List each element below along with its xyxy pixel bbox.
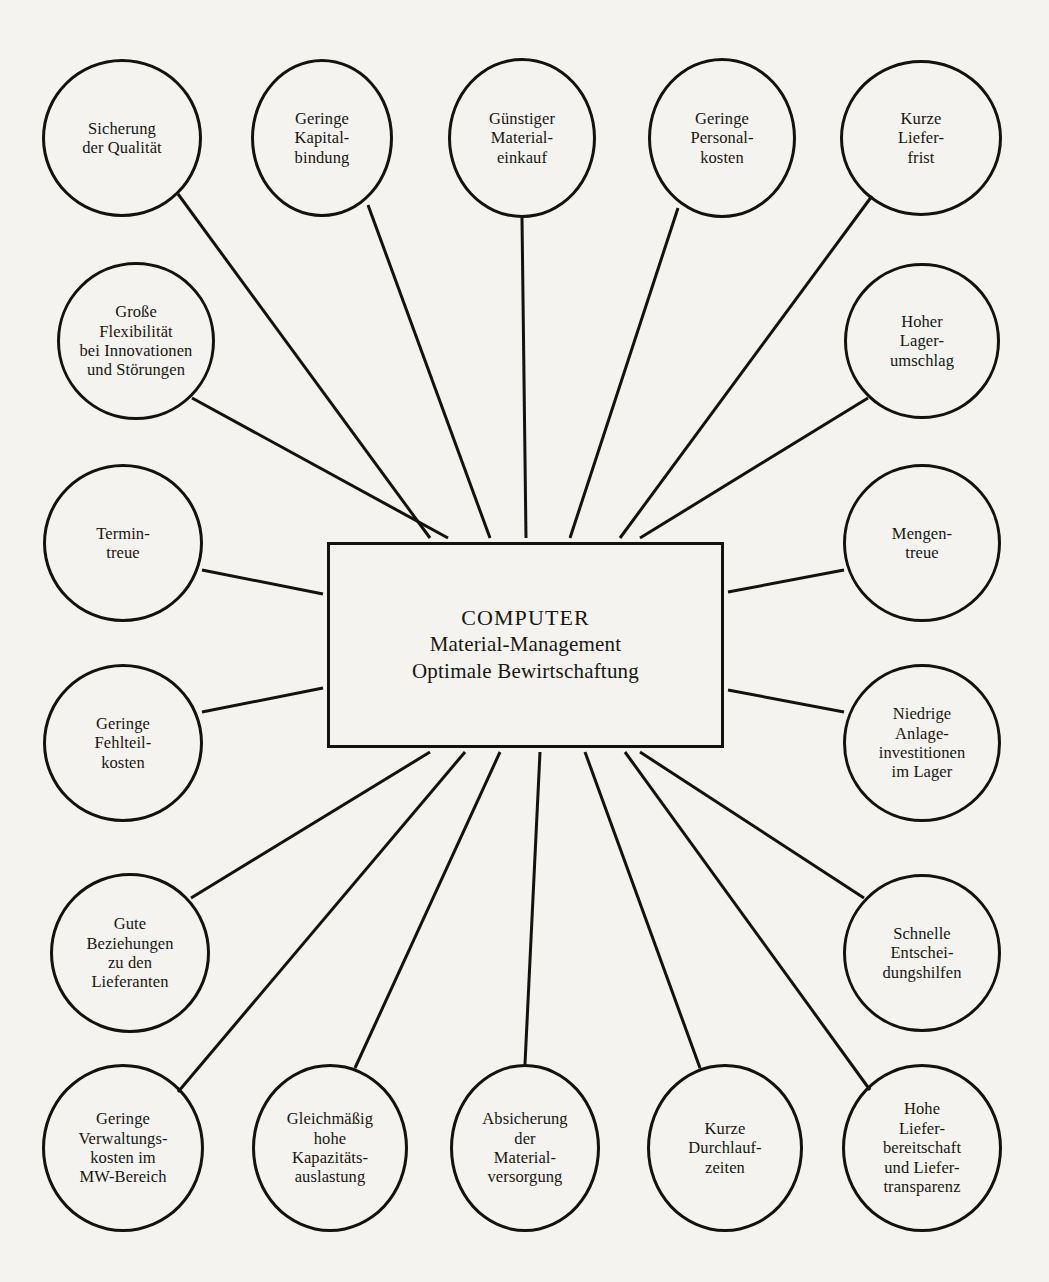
node-gute-beziehungen[interactable]: Gute Beziehungen zu den Lieferanten: [50, 873, 210, 1033]
center-subtitle-1: Material-Management: [412, 631, 639, 658]
node-label-kurze-durchlaufzeiten: Kurze Durchlauf- zeiten: [680, 1119, 769, 1177]
node-geringe-verwaltungskosten[interactable]: Geringe Verwaltungs- kosten im MW-Bereic…: [42, 1064, 204, 1232]
node-mengentreue[interactable]: Mengen- treue: [843, 464, 1001, 622]
connector-line-hoher-lagerumschlag: [640, 398, 868, 538]
connector-line-guenstiger-materialeinkauf: [522, 218, 526, 538]
node-label-geringe-kapitalbindung: Geringe Kapital- bindung: [287, 109, 358, 167]
node-geringe-fehlteilkosten[interactable]: Geringe Fehlteil- kosten: [43, 664, 203, 822]
node-schnelle-entscheidungshilfen[interactable]: Schnelle Entschei- dungshilfen: [843, 874, 1001, 1032]
node-label-geringe-verwaltungskosten: Geringe Verwaltungs- kosten im MW-Bereic…: [70, 1109, 175, 1187]
connector-line-gleichmaessig-kapazitaet: [355, 752, 500, 1068]
connector-line-grosse-flexibilitaet: [192, 398, 448, 538]
connector-line-sicherung-der-qualitaet: [178, 194, 430, 538]
connector-line-niedrige-anlageinvest: [728, 690, 844, 712]
diagram-canvas: COMPUTER Material-Management Optimale Be…: [0, 0, 1049, 1282]
node-label-niedrige-anlageinvest: Niedrige Anlage- investitionen im Lager: [871, 704, 974, 782]
node-termintreue[interactable]: Termin- treue: [43, 464, 203, 622]
connector-line-hohe-lieferbereitschaft: [625, 752, 870, 1090]
node-label-mengentreue: Mengen- treue: [884, 524, 960, 563]
node-grosse-flexibilitaet[interactable]: Große Flexibilität bei Innovationen und …: [57, 262, 215, 420]
node-label-hohe-lieferbereitschaft: Hohe Liefer- bereitschaft und Liefer- tr…: [875, 1099, 969, 1196]
center-title: COMPUTER: [412, 605, 639, 631]
node-label-schnelle-entscheidungshilfen: Schnelle Entschei- dungshilfen: [874, 924, 969, 982]
center-subtitle-2: Optimale Bewirtschaftung: [412, 658, 639, 685]
node-gleichmaessig-kapazitaet[interactable]: Gleichmäßig hohe Kapazitäts- auslastung: [252, 1064, 408, 1232]
node-label-hoher-lagerumschlag: Hoher Lager- umschlag: [882, 312, 962, 370]
connector-line-absicherung-materialversorgung: [525, 752, 540, 1064]
node-sicherung-der-qualitaet[interactable]: Sicherung der Qualität: [42, 59, 202, 217]
connector-line-gute-beziehungen: [191, 752, 430, 898]
node-kurze-lieferfrist[interactable]: Kurze Liefer- frist: [840, 60, 1002, 216]
connector-line-kurze-lieferfrist: [620, 196, 872, 538]
center-box: COMPUTER Material-Management Optimale Be…: [327, 542, 724, 748]
node-label-gute-beziehungen: Gute Beziehungen zu den Lieferanten: [78, 914, 181, 992]
connector-line-termintreue: [202, 570, 323, 594]
connector-line-geringe-kapitalbindung: [368, 205, 490, 538]
node-label-gleichmaessig-kapazitaet: Gleichmäßig hohe Kapazitäts- auslastung: [279, 1109, 381, 1187]
connector-line-geringe-fehlteilkosten: [202, 688, 323, 712]
node-label-termintreue: Termin- treue: [88, 524, 158, 563]
node-absicherung-materialversorgung[interactable]: Absicherung der Material- versorgung: [450, 1064, 600, 1232]
connector-line-mengentreue: [728, 570, 844, 592]
connector-line-schnelle-entscheidungshilfen: [640, 752, 864, 898]
node-hohe-lieferbereitschaft[interactable]: Hohe Liefer- bereitschaft und Liefer- tr…: [842, 1064, 1002, 1232]
node-label-guenstiger-materialeinkauf: Günstiger Material- einkauf: [481, 109, 563, 167]
node-label-sicherung-der-qualitaet: Sicherung der Qualität: [74, 119, 170, 158]
node-guenstiger-materialeinkauf[interactable]: Günstiger Material- einkauf: [448, 58, 596, 218]
node-kurze-durchlaufzeiten[interactable]: Kurze Durchlauf- zeiten: [647, 1064, 803, 1232]
node-label-kurze-lieferfrist: Kurze Liefer- frist: [890, 109, 952, 167]
node-label-geringe-fehlteilkosten: Geringe Fehlteil- kosten: [87, 714, 160, 772]
connector-line-geringe-personalkosten: [570, 208, 678, 538]
node-label-absicherung-materialversorgung: Absicherung der Material- versorgung: [474, 1109, 575, 1187]
node-geringe-kapitalbindung[interactable]: Geringe Kapital- bindung: [251, 59, 393, 217]
node-label-grosse-flexibilitaet: Große Flexibilität bei Innovationen und …: [72, 302, 201, 380]
node-label-geringe-personalkosten: Geringe Personal- kosten: [682, 109, 761, 167]
node-hoher-lagerumschlag[interactable]: Hoher Lager- umschlag: [844, 263, 1000, 419]
connector-line-kurze-durchlaufzeiten: [585, 752, 700, 1068]
node-niedrige-anlageinvest[interactable]: Niedrige Anlage- investitionen im Lager: [843, 664, 1001, 822]
node-geringe-personalkosten[interactable]: Geringe Personal- kosten: [648, 58, 796, 218]
